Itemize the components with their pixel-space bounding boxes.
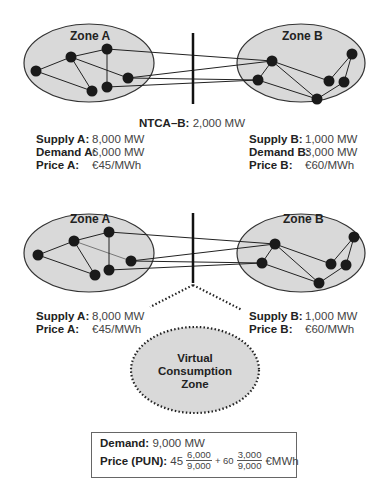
demand-b-key: Demand B:: [249, 146, 305, 159]
virtual-consumption-zone-label: Virtual Consumption Zone: [130, 352, 260, 391]
price-a-key: Price A:: [36, 159, 92, 172]
fraction-1-denominator: 9,000: [187, 461, 211, 471]
vcz-line-1: Virtual: [130, 352, 260, 365]
top-zone-b-info: Supply B:1,000 MW Demand B:3,000 MW Pric…: [249, 133, 357, 172]
fraction-1: 6,000 9,000: [186, 450, 212, 471]
price-a-value: €45/MWh: [92, 323, 141, 335]
supply-a-value: 8,000 MW: [92, 310, 144, 322]
price-b-value: €60/MWh: [305, 159, 354, 171]
supply-a-key: Supply A:: [36, 133, 92, 146]
price-b-key: Price B:: [249, 159, 305, 172]
zone-b-label: Zone B: [283, 212, 324, 226]
demand-a-value: 6,000 MW: [92, 146, 144, 158]
ntc-value: 2,000 MW: [193, 117, 245, 129]
price-b-key: Price B:: [249, 323, 305, 336]
top-network-diagram: Zone A Zone B: [24, 24, 365, 105]
demand-b-value: 3,000 MW: [305, 146, 357, 158]
supply-a-value: 8,000 MW: [92, 133, 144, 145]
pun-formula-box: Demand: 9,000 MW Price (PUN): 45 6,000 9…: [91, 432, 297, 478]
bottom-zone-a-info: Supply A:8,000 MW Price A:€45/MWh: [36, 310, 144, 336]
zone-a-label: Zone A: [70, 212, 111, 226]
demand-a-key: Demand A:: [36, 146, 92, 159]
price-a-value: €45/MWh: [92, 159, 141, 171]
price-pun-key: Price (PUN):: [100, 455, 167, 467]
diagram-canvas: Zone A Zone B: [0, 0, 384, 494]
virtual-zone-connectors: [150, 285, 242, 310]
demand-row: Demand: 9,000 MW: [100, 437, 288, 449]
supply-b-value: 1,000 MW: [305, 133, 357, 145]
fraction-2-denominator: 9,000: [238, 461, 262, 471]
zone-b-label: Zone B: [282, 29, 323, 43]
vcz-line-3: Zone: [130, 378, 260, 391]
bottom-zone-b-info: Supply B:1,000 MW Price B:€60/MWh: [249, 310, 357, 336]
price-b-value: €60/MWh: [305, 323, 354, 335]
top-zone-a-info: Supply A:8,000 MW Demand A:6,000 MW Pric…: [36, 133, 144, 172]
price-unit: €MWh: [265, 455, 298, 467]
demand-value: 9,000 MW: [152, 437, 204, 449]
ntc-label: NTCA–B: 2,000 MW: [0, 117, 384, 129]
supply-a-key: Supply A:: [36, 310, 92, 323]
price-a-key: Price A:: [36, 323, 92, 336]
supply-b-key: Supply B:: [249, 133, 305, 146]
supply-b-key: Supply B:: [249, 310, 305, 323]
price-pun-row: Price (PUN): 45 6,000 9,000 + 60 3,000 9…: [100, 450, 288, 471]
ntc-key: NTCA–B:: [139, 117, 189, 129]
supply-b-value: 1,000 MW: [305, 310, 357, 322]
term1-coefficient: 45: [170, 455, 183, 467]
zone-a-label: Zone A: [70, 29, 111, 43]
fraction-2: 3,000 9,000: [237, 450, 263, 471]
demand-key: Demand:: [100, 437, 149, 449]
vcz-line-2: Consumption: [130, 365, 260, 378]
plus-term: + 60: [215, 455, 234, 466]
